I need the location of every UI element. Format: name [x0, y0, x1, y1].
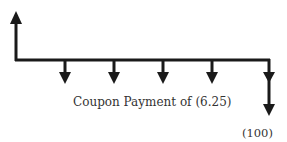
down-arrow-icon — [206, 72, 218, 84]
up-arrow-icon — [10, 11, 22, 24]
down-arrow-icon — [157, 72, 169, 84]
cash-flow-timeline — [0, 0, 287, 142]
principal-label: (100) — [242, 126, 273, 140]
down-arrow-icon — [263, 104, 275, 116]
down-arrow-icon — [263, 72, 275, 83]
down-arrow-icon — [59, 72, 71, 84]
down-arrow-icon — [108, 72, 120, 84]
cash-flow-diagram: Coupon Payment of (6.25) (100) — [0, 0, 287, 142]
coupon-payment-label: Coupon Payment of (6.25) — [73, 95, 231, 109]
